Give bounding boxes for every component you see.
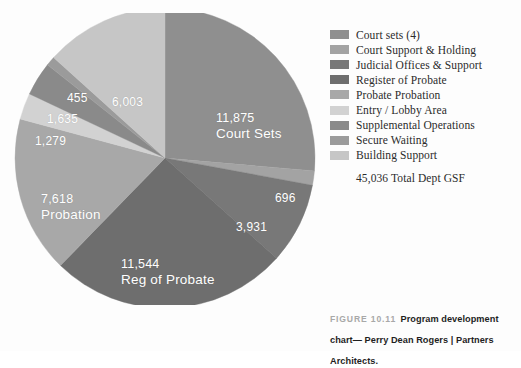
slice-value-court-sets: 11,875 [216, 111, 282, 126]
legend-label: Building Support [356, 149, 437, 161]
legend-row[interactable]: Probate Probation [330, 87, 516, 102]
legend-color-swatch [330, 60, 349, 69]
legend-row[interactable]: Judicial Offices & Support [330, 57, 516, 72]
legend-color-swatch [330, 45, 349, 54]
pie-slice[interactable] [165, 13, 315, 171]
slice-label-probate-probation: 7,618 Probation [41, 192, 101, 223]
legend-color-swatch [330, 151, 349, 160]
slice-label-court-support: 696 [275, 191, 296, 205]
slice-label-register-of-probate: 11,544 Reg of Probate [121, 257, 215, 288]
slice-value-register-of-probate: 11,544 [121, 257, 215, 272]
legend-label: Court Support & Holding [356, 44, 476, 56]
legend-color-swatch [330, 30, 349, 39]
slice-label-building-support: 6,003 [112, 95, 143, 109]
legend-label: Secure Waiting [356, 134, 427, 146]
legend-color-swatch [330, 75, 349, 84]
legend-label: Judicial Offices & Support [356, 59, 482, 71]
legend-label: Entry / Lobby Area [356, 104, 447, 116]
pie-chart: 11,875 Court Sets 696 3,931 11,544 Reg o… [13, 13, 321, 305]
slice-label-judicial-offices: 3,931 [236, 220, 267, 234]
slice-name-register-of-probate: Reg of Probate [121, 272, 215, 288]
figure-number: FIGURE 10.11 [330, 314, 396, 324]
legend-label: Probate Probation [356, 89, 440, 101]
legend-row[interactable]: Secure Waiting [330, 133, 516, 148]
slice-name-probate-probation: Probation [41, 207, 101, 223]
legend-row[interactable]: Court Support & Holding [330, 42, 516, 57]
legend-row[interactable]: Court sets (4) [330, 27, 516, 42]
legend-color-swatch [330, 136, 349, 145]
slice-label-court-sets: 11,875 Court Sets [216, 111, 282, 142]
legend-color-swatch [330, 106, 349, 115]
slice-value-secure-waiting: 455 [67, 91, 88, 105]
legend-label: Court sets (4) [356, 29, 420, 41]
legend-color-swatch [330, 90, 349, 99]
slice-value-probate-probation: 7,618 [41, 192, 101, 207]
slice-value-judicial-offices: 3,931 [236, 220, 267, 234]
slice-value-entry-lobby: 1,279 [35, 134, 66, 148]
legend-label: Register of Probate [356, 74, 447, 86]
figure-caption: FIGURE 10.11 Program development chart— … [330, 306, 518, 368]
legend-row[interactable]: Register of Probate [330, 72, 516, 87]
legend-row[interactable]: Supplemental Operations [330, 118, 516, 133]
slice-label-secure-waiting: 455 [67, 91, 88, 105]
slice-name-court-sets: Court Sets [216, 126, 282, 142]
legend-color-swatch [330, 121, 349, 130]
legend-row[interactable]: Building Support [330, 148, 516, 163]
slice-value-court-support: 696 [275, 191, 296, 205]
chart-legend: Court sets (4)Court Support & HoldingJud… [330, 27, 516, 184]
slice-label-supplemental-operations: 1,635 [47, 112, 78, 126]
legend-row[interactable]: Entry / Lobby Area [330, 102, 516, 117]
slice-value-building-support: 6,003 [112, 95, 143, 109]
legend-label: Supplemental Operations [356, 119, 475, 131]
legend-total-gsf: 45,036 Total Dept GSF [356, 172, 516, 184]
slice-value-supplemental-operations: 1,635 [47, 112, 78, 126]
slice-label-entry-lobby: 1,279 [35, 134, 66, 148]
